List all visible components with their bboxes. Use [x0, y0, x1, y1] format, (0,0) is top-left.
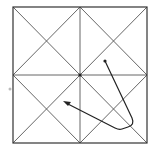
center-dot	[78, 73, 81, 76]
stray-dot	[9, 88, 12, 91]
grid-diagram	[0, 0, 157, 149]
